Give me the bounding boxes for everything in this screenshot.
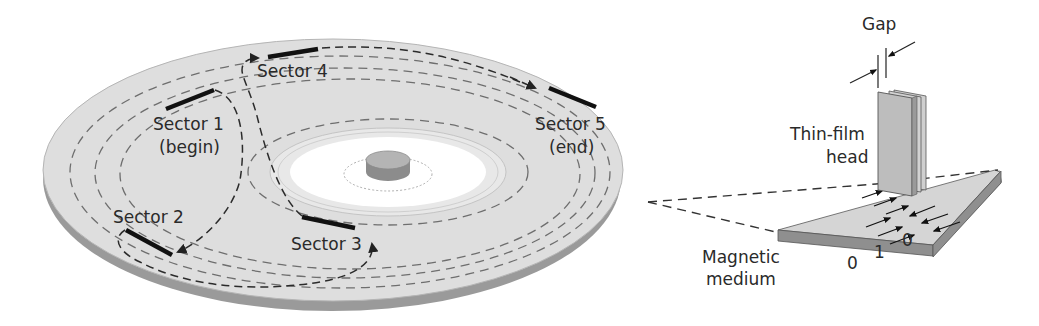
thin-film-head: [878, 90, 926, 196]
sector-1-note: (begin): [159, 137, 220, 157]
medium-label-line2: medium: [706, 269, 776, 289]
sector-5-label: Sector 5: [535, 114, 606, 134]
medium-label-line1: Magnetic: [702, 247, 780, 267]
disk-platter: Sector 4 Sector 1 (begin) Sector 5 (end)…: [43, 39, 623, 311]
sector-3-label: Sector 3: [291, 234, 362, 254]
head-label-line1: Thin-film: [789, 124, 865, 144]
head-label-line2: head: [826, 147, 868, 167]
sector-5-note: (end): [549, 137, 594, 157]
gap-label: Gap: [862, 14, 896, 34]
sector-4-label: Sector 4: [257, 61, 328, 81]
zoom-line-lower: [648, 202, 780, 233]
spindle: [366, 151, 410, 181]
bit-label-1: 1: [874, 242, 885, 262]
bit-label-0-first: 0: [847, 253, 858, 273]
bit-label-0-second: 0: [902, 230, 913, 250]
sector-2-label: Sector 2: [113, 207, 184, 227]
disk-sector-diagram: Sector 4 Sector 1 (begin) Sector 5 (end)…: [0, 0, 1039, 326]
sector-1-label: Sector 1: [153, 114, 224, 134]
gap-indicator: [850, 42, 915, 88]
zoom-line-upper: [648, 184, 876, 202]
